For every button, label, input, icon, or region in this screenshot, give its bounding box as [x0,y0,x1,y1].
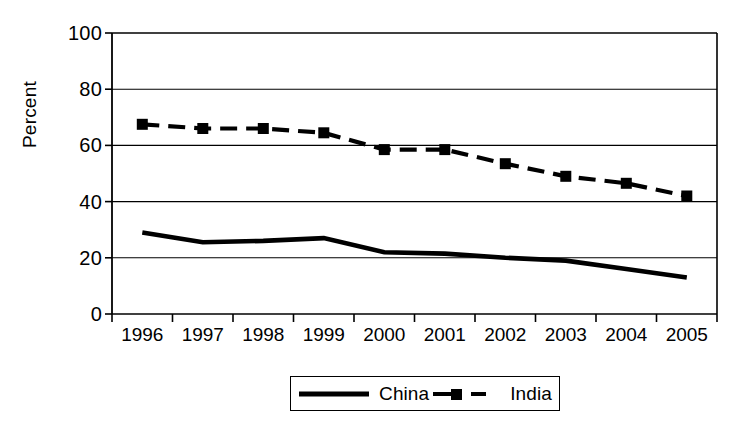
plot-area [0,0,747,421]
legend-entry-china: China [296,384,431,403]
x-tick-label-2005: 2005 [657,322,718,352]
series-marker-india-2003 [560,171,571,182]
series-line-china [142,233,687,278]
x-tick-label-2003: 2003 [536,322,597,352]
x-axis-tick-labels: 1996 1997 1998 1999 2000 2001 2002 2003 … [112,322,717,352]
series-marker-india-2001 [439,144,450,155]
legend-label-china: China [372,384,431,403]
legend-label-india: India [503,384,554,403]
series-marker-india-1998 [258,123,269,134]
legend-entry-india: India [431,384,554,403]
series-marker-india-2004 [621,178,632,189]
axis-ticks [105,33,717,322]
data-series-layer [137,119,693,278]
x-tick-label-2002: 2002 [475,322,536,352]
gridlines [112,33,717,314]
series-marker-india-1997 [197,123,208,134]
series-marker-india-1999 [318,127,329,138]
chart-legend: China India [290,376,560,411]
x-tick-label-1996: 1996 [112,322,173,352]
x-tick-label-2000: 2000 [354,322,415,352]
line-chart: Percent 100 80 60 40 20 0 1996 1997 1998… [0,0,747,421]
x-tick-label-1997: 1997 [173,322,234,352]
x-tick-label-1998: 1998 [233,322,294,352]
series-line-india [142,124,687,196]
series-marker-india-2002 [500,158,511,169]
axis-lines [112,33,717,314]
dashed-square-line-swatch [431,385,503,403]
x-tick-label-2001: 2001 [415,322,476,352]
series-marker-india-2000 [379,144,390,155]
x-tick-label-1999: 1999 [294,322,355,352]
series-marker-india-2005 [681,191,692,202]
solid-line-swatch [296,386,372,402]
series-marker-india-1996 [137,119,148,130]
x-tick-label-2004: 2004 [596,322,657,352]
